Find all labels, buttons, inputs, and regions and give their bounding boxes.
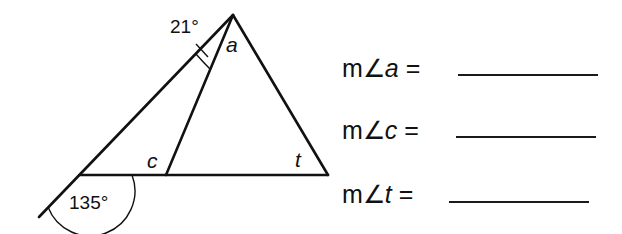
angle-var: c <box>385 116 398 144</box>
answer-blank-c[interactable] <box>456 136 596 138</box>
angle-label-c: c <box>147 149 158 172</box>
question-c: m∠c = <box>342 118 419 143</box>
equals-sign: = <box>406 54 421 82</box>
angle-label-135: 135° <box>69 192 108 213</box>
equals-sign: = <box>404 116 419 144</box>
measure-prefix: m∠ <box>342 180 385 208</box>
answer-blank-a[interactable] <box>458 74 598 76</box>
right-side <box>233 15 328 175</box>
triangle-diagram: 21° a c t 135° <box>0 0 340 234</box>
equals-sign: = <box>399 180 414 208</box>
angle-var: t <box>385 180 392 208</box>
left-side-extended <box>39 15 233 217</box>
question-a: m∠a = <box>342 56 420 81</box>
angle-var: a <box>385 54 399 82</box>
answer-blank-t[interactable] <box>449 201 589 203</box>
measure-prefix: m∠ <box>342 54 385 82</box>
question-t: m∠t = <box>342 182 413 207</box>
angle-label-a: a <box>226 33 238 56</box>
cevian <box>166 15 233 175</box>
angle-label-t: t <box>295 148 302 171</box>
angle-label-21: 21° <box>170 16 199 37</box>
measure-prefix: m∠ <box>342 116 385 144</box>
